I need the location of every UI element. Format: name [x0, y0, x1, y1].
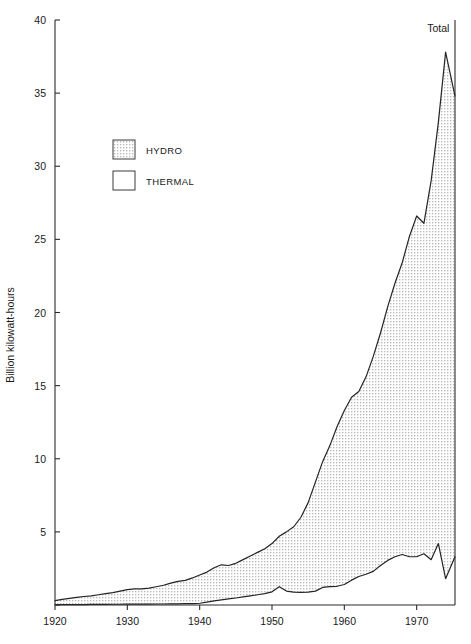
y-tick-label: 35	[34, 87, 46, 99]
y-tick-label: 40	[34, 14, 46, 26]
legend-label-hydro: HYDRO	[146, 145, 182, 156]
legend-swatch-hydro	[113, 140, 135, 159]
y-tick-label: 15	[34, 380, 46, 392]
x-tick-label: 1970	[405, 615, 429, 627]
y-tick-label: 25	[34, 233, 46, 245]
x-tick-label: 1930	[116, 615, 140, 627]
y-tick-label: 20	[34, 307, 46, 319]
legend-label-thermal: THERMAL	[146, 176, 194, 187]
x-axis-tick-labels: 192019301940195019601970	[43, 615, 428, 627]
plot-area	[55, 52, 455, 605]
hydro-area-series	[55, 52, 455, 605]
chart-annotations: Total	[427, 22, 449, 34]
legend-swatch-thermal	[113, 171, 135, 190]
x-tick-label: 1950	[260, 615, 284, 627]
y-axis-title: Billion kilowatt-hours	[4, 287, 16, 383]
y-tick-label: 10	[34, 453, 46, 465]
x-tick-label: 1960	[333, 615, 357, 627]
chart-canvas: 510152025303540 192019301940195019601970…	[0, 0, 471, 644]
x-axis-ticks	[55, 605, 417, 610]
y-axis-tick-labels: 510152025303540	[34, 14, 46, 538]
x-tick-label: 1940	[188, 615, 212, 627]
y-tick-label: 5	[40, 526, 46, 538]
chart-legend: HYDRO THERMAL	[113, 140, 194, 190]
y-axis-ticks	[55, 20, 60, 605]
y-tick-label: 30	[34, 160, 46, 172]
x-tick-label: 1920	[43, 615, 67, 627]
annotation-total-label: Total	[427, 22, 449, 34]
electricity-generation-area-chart: 510152025303540 192019301940195019601970…	[0, 0, 471, 644]
